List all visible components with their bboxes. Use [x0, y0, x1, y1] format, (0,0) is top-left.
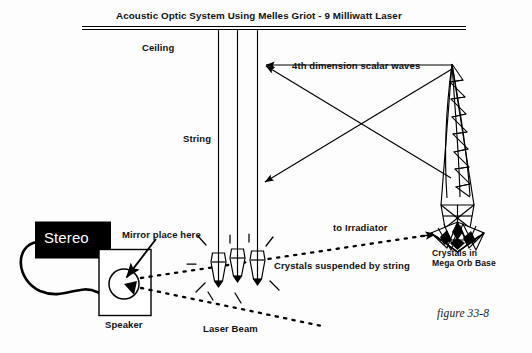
scalar-wave-arrows	[265, 65, 452, 182]
string-group	[219, 30, 258, 254]
label-mega-orb-base-line2: Mega Orb Base	[432, 258, 496, 268]
mast-guy-right	[452, 64, 474, 205]
mast-inner-edge	[452, 64, 460, 197]
label-mirror-place-here: Mirror place here	[122, 229, 201, 240]
label-scalar-waves: 4th dimension scalar waves	[292, 60, 420, 71]
label-mega-orb-base: Crystals inMega Orb Base	[432, 248, 496, 268]
suspended-crystal-2	[230, 249, 245, 282]
suspended-crystal-group	[211, 249, 265, 287]
label-ceiling: Ceiling	[142, 42, 174, 53]
figure-canvas: Acoustic Optic System Using Melles Griot…	[0, 0, 532, 353]
laser-beam-upper	[141, 234, 436, 278]
label-stereo: Stereo	[44, 229, 89, 246]
scalar-wave-arrow-cross	[266, 66, 451, 178]
label-mega-orb-base-line1: Crystals in	[432, 248, 477, 258]
suspended-crystal-1	[211, 253, 226, 287]
scalar-wave-arrow-lower	[265, 69, 452, 182]
suspended-crystal-3	[250, 251, 265, 285]
label-laser-beam: Laser Beam	[203, 323, 258, 334]
laser-beam-lower	[141, 288, 322, 326]
label-to-irradiator: to Irradiator	[333, 222, 388, 233]
mirror-assembly	[109, 269, 139, 299]
label-crystals-suspended: Crystals suspended by string	[274, 260, 410, 271]
diagram-illustration	[0, 0, 532, 353]
figure-title: Acoustic Optic System Using Melles Griot…	[116, 10, 402, 21]
label-speaker: Speaker	[105, 319, 143, 330]
mega-orb-mast	[441, 64, 474, 205]
label-string: String	[183, 133, 211, 144]
laser-beam-group	[141, 234, 436, 326]
figure-caption: figure 33-8	[437, 307, 489, 319]
